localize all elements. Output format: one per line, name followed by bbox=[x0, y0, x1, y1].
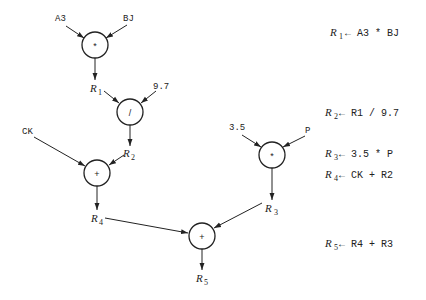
edge-p-n4 bbox=[283, 136, 305, 147]
input-label-9-7: 9.7 bbox=[153, 82, 169, 92]
equation-lhs: R bbox=[329, 26, 337, 38]
equation-lhs: R bbox=[324, 106, 332, 118]
equation-rhs: ← CK + R2 bbox=[339, 170, 393, 181]
expression-dag: * / + * + A3 BJ 9.7 CK 3.5 P R 1 R 2 R 3… bbox=[0, 0, 426, 300]
register-base: R bbox=[264, 202, 272, 214]
node-add-2: + bbox=[189, 223, 215, 249]
edge-bj-n1 bbox=[106, 25, 127, 38]
node-multiply-1: * bbox=[82, 32, 108, 58]
edge-a3-n1 bbox=[66, 26, 84, 38]
equation-list: R 1 ← A3 * BJ R 2 ← R1 / 9.7 R 3 ← 3.5 *… bbox=[324, 26, 399, 252]
register-base: R bbox=[122, 147, 130, 159]
register-r2: R 2 bbox=[122, 147, 135, 162]
register-base: R bbox=[89, 82, 97, 94]
equation-lhs: R bbox=[324, 168, 332, 180]
register-subscript: 4 bbox=[99, 218, 103, 227]
node-add-1: + bbox=[84, 160, 110, 186]
equation-lhs-sub: 2 bbox=[334, 112, 338, 121]
edge-35-n4 bbox=[242, 135, 261, 147]
operator-symbol: * bbox=[270, 151, 274, 161]
register-r5: R 5 bbox=[195, 272, 208, 287]
equation-lhs-sub: 1 bbox=[339, 32, 343, 41]
input-label-3-5: 3.5 bbox=[229, 123, 245, 133]
equation-rhs: ← A3 * BJ bbox=[345, 28, 399, 39]
input-label-ck: CK bbox=[22, 127, 33, 137]
input-label-p: P bbox=[305, 126, 310, 136]
node-divide: / bbox=[117, 99, 143, 125]
edge-r3-n5 bbox=[214, 203, 262, 228]
register-subscript: 5 bbox=[204, 278, 208, 287]
equation-r3: R 3 ← 3.5 * P bbox=[324, 147, 393, 162]
equation-lhs: R bbox=[324, 147, 332, 159]
equation-lhs-sub: 3 bbox=[334, 153, 338, 162]
input-label-bj: BJ bbox=[123, 14, 134, 24]
register-subscript: 1 bbox=[98, 88, 102, 97]
equation-r1: R 1 ← A3 * BJ bbox=[329, 26, 399, 41]
register-r1: R 1 bbox=[89, 82, 102, 97]
edge-r1-n2 bbox=[104, 91, 119, 103]
register-base: R bbox=[90, 212, 98, 224]
register-subscript: 3 bbox=[274, 208, 278, 217]
equation-lhs-sub: 5 bbox=[334, 243, 338, 252]
equation-r4: R 4 ← CK + R2 bbox=[324, 168, 393, 183]
register-subscript: 2 bbox=[131, 153, 135, 162]
equation-rhs: ← R1 / 9.7 bbox=[339, 108, 399, 119]
edge-r4-n5 bbox=[105, 218, 188, 233]
operator-symbol: + bbox=[199, 232, 204, 242]
input-label-a3: A3 bbox=[55, 14, 66, 24]
register-r4: R 4 bbox=[90, 212, 103, 227]
edge-97-n2 bbox=[141, 91, 156, 103]
equation-rhs: ← 3.5 * P bbox=[339, 149, 393, 160]
equation-rhs: ← R4 + R3 bbox=[339, 239, 393, 250]
operator-symbol: * bbox=[93, 41, 97, 51]
register-r3: R 3 bbox=[264, 202, 278, 217]
operator-symbol: + bbox=[94, 169, 99, 179]
equation-lhs-sub: 4 bbox=[334, 174, 338, 183]
edge-r2-n3 bbox=[109, 155, 124, 165]
edge-ck-n3 bbox=[34, 137, 85, 166]
equation-r2: R 2 ← R1 / 9.7 bbox=[324, 106, 399, 121]
equation-lhs: R bbox=[324, 237, 332, 249]
node-multiply-2: * bbox=[259, 142, 285, 168]
equation-r5: R 5 ← R4 + R3 bbox=[324, 237, 393, 252]
register-base: R bbox=[195, 272, 203, 284]
